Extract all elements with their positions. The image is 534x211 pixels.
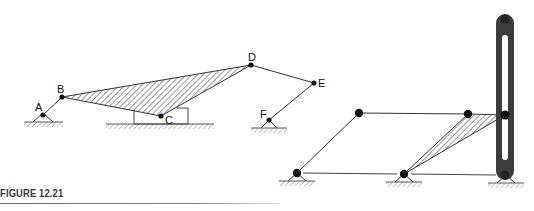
link-crank (297, 113, 359, 173)
joint-right-ground-2 (400, 170, 408, 178)
joint-slider-pin (501, 111, 510, 120)
frame-line-2 (411, 174, 496, 175)
slotted-bar (496, 14, 514, 180)
label-a: A (35, 101, 43, 113)
link-ab (43, 97, 62, 115)
joint-f (266, 117, 271, 122)
figure-caption: FIGURE 12.21 (0, 187, 63, 199)
joint-e (311, 80, 316, 85)
link-hatched-triangle (404, 114, 505, 174)
caption-rule (0, 203, 280, 204)
joint-d (248, 62, 253, 67)
joint-a (40, 112, 45, 117)
link-ef (269, 83, 314, 120)
label-d: D (248, 51, 256, 63)
left-mechanism: A B C D E F (24, 51, 325, 133)
joint-right-ground-1 (293, 169, 301, 177)
label-b: B (57, 83, 64, 95)
link-top (359, 113, 468, 114)
figure-12-21-diagram: A B C D E F (0, 0, 534, 211)
right-mechanism (279, 14, 524, 188)
joint-right-top-1 (355, 109, 363, 117)
joint-right-top-2 (464, 110, 472, 118)
label-e: E (318, 77, 325, 89)
frame-line-1 (303, 173, 397, 174)
label-c: C (165, 114, 173, 126)
link-de (251, 65, 314, 83)
joint-b (59, 94, 64, 99)
label-f: F (260, 108, 267, 120)
link-bcd (62, 65, 251, 116)
joint-c (158, 113, 163, 118)
